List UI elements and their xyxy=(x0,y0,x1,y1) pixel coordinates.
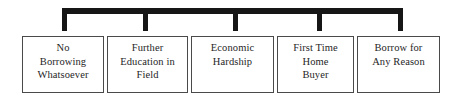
option-box-first-time-buyer[interactable]: First Time Home Buyer xyxy=(277,36,354,93)
bracket-stem-2 xyxy=(143,12,148,31)
bracket-connector xyxy=(0,0,456,40)
bracket-stem-3 xyxy=(233,12,238,31)
diagram-canvas: No Borrowing Whatsoever Further Educatio… xyxy=(0,0,456,107)
option-label: Borrow for Any Reason xyxy=(372,41,425,68)
option-boxes-row: No Borrowing Whatsoever Further Educatio… xyxy=(22,36,434,93)
bracket-stem-5 xyxy=(398,12,403,31)
option-box-no-borrowing[interactable]: No Borrowing Whatsoever xyxy=(22,36,104,93)
option-box-borrow-any-reason[interactable]: Borrow for Any Reason xyxy=(357,36,440,93)
option-label: No Borrowing Whatsoever xyxy=(37,41,88,82)
option-box-economic-hardship[interactable]: Economic Hardship xyxy=(191,36,274,93)
bracket-stem-4 xyxy=(317,12,322,31)
option-label: Economic Hardship xyxy=(211,41,254,68)
option-box-further-education[interactable]: Further Education in Field xyxy=(107,36,188,93)
option-label: Further Education in Field xyxy=(120,41,175,82)
bracket-stem-1 xyxy=(62,12,67,31)
option-label: First Time Home Buyer xyxy=(293,41,337,82)
